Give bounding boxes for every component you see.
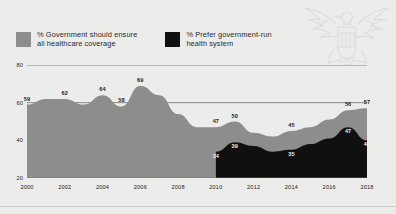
data-label: 58 <box>118 97 124 103</box>
x-axis-tick: 2014 <box>279 184 303 190</box>
data-label: 56 <box>345 101 351 107</box>
legend-swatch-gray <box>16 32 31 47</box>
x-axis-tick: 2010 <box>204 184 228 190</box>
data-label: 57 <box>364 99 370 105</box>
x-axis-tick: 2002 <box>53 184 77 190</box>
chart-legend: % Government should ensure all healthcar… <box>16 31 272 48</box>
data-label: 40 <box>364 141 370 147</box>
plot-area <box>27 65 367 178</box>
footer-divider <box>0 206 396 207</box>
data-label: 62 <box>62 90 68 96</box>
data-label: 69 <box>137 77 143 83</box>
legend-item-govt-run: % Prefer government-run health system <box>165 31 271 48</box>
chart-canvas: % Government should ensure all healthcar… <box>0 0 396 214</box>
data-label: 47 <box>213 118 219 124</box>
x-axis-tick: 2018 <box>355 184 379 190</box>
x-axis-tick: 2008 <box>166 184 190 190</box>
legend-label-govt-run: % Prefer government-run health system <box>186 31 271 48</box>
y-axis-tick: 40 <box>9 137 23 143</box>
x-axis-tick: 2004 <box>91 184 115 190</box>
legend-label-ensure-coverage: % Government should ensure all healthcar… <box>37 31 137 48</box>
data-label: 34 <box>213 153 219 159</box>
data-label: 35 <box>288 151 294 157</box>
x-axis-tick: 2006 <box>128 184 152 190</box>
data-label: 50 <box>232 113 238 119</box>
x-axis-tick: 2012 <box>242 184 266 190</box>
data-label: 59 <box>24 96 30 102</box>
y-axis-tick: 80 <box>9 62 23 68</box>
legend-item-ensure-coverage: % Government should ensure all healthcar… <box>16 31 137 48</box>
data-label: 64 <box>99 86 105 92</box>
x-axis-tick: 2016 <box>317 184 341 190</box>
data-label: 45 <box>288 122 294 128</box>
legend-swatch-black <box>165 32 180 47</box>
y-axis-tick: 60 <box>9 100 23 106</box>
x-axis-tick: 2000 <box>15 184 39 190</box>
eagle-emblem-watermark <box>298 0 396 68</box>
data-label: 39 <box>232 143 238 149</box>
data-label: 47 <box>345 128 351 134</box>
y-axis-tick: 20 <box>9 175 23 181</box>
